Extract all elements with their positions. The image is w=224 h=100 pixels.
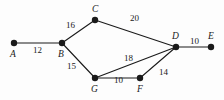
edge-weight-b-g: 15 bbox=[67, 62, 76, 71]
graph-edge-c-d bbox=[95, 20, 176, 47]
graph-node-e[interactable] bbox=[208, 44, 214, 50]
edges-group bbox=[14, 20, 211, 78]
node-label-c: C bbox=[92, 5, 98, 15]
graph-node-d[interactable] bbox=[173, 44, 179, 50]
graph-diagram: ABCDEFG 1216201518101410 bbox=[0, 0, 224, 100]
edge-weight-c-d: 20 bbox=[130, 14, 139, 23]
edge-weight-d-e: 10 bbox=[190, 37, 199, 46]
node-label-b: B bbox=[58, 50, 64, 60]
node-label-a: A bbox=[10, 50, 16, 60]
node-label-d: D bbox=[172, 32, 179, 42]
graph-node-g[interactable] bbox=[92, 75, 98, 81]
edge-weight-b-c: 16 bbox=[66, 21, 75, 30]
graph-node-b[interactable] bbox=[59, 40, 65, 46]
graph-edge-f-d bbox=[140, 47, 176, 78]
graph-node-c[interactable] bbox=[92, 17, 98, 23]
node-label-f: F bbox=[137, 85, 143, 95]
edge-weight-g-f: 10 bbox=[114, 76, 123, 85]
edge-weight-a-b: 12 bbox=[33, 46, 42, 55]
graph-node-f[interactable] bbox=[137, 75, 143, 81]
node-label-e: E bbox=[208, 32, 214, 42]
edge-weight-g-d: 18 bbox=[124, 54, 133, 63]
edge-weight-f-d: 14 bbox=[159, 68, 168, 77]
graph-node-a[interactable] bbox=[11, 40, 17, 46]
node-label-g: G bbox=[91, 85, 98, 95]
